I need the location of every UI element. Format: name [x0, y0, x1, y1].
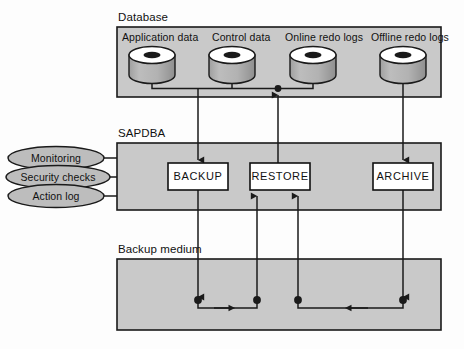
- diagram-canvas: Database SAPDBA Backup medium Applicatio…: [0, 0, 464, 349]
- cylinder-offline-redo-logs: [380, 47, 426, 84]
- junction-dot-medium-1: [194, 296, 202, 304]
- feature-label-action-log: Action log: [8, 190, 104, 202]
- process-label-restore: RESTORE: [250, 170, 310, 182]
- backup-medium-panel: [117, 259, 441, 330]
- store-label-control-data: Control data: [212, 31, 270, 43]
- cylinder-online-redo-logs: [290, 47, 336, 84]
- database-panel-label: Database: [118, 11, 168, 23]
- store-label-offline-redo-logs: Offline redo logs: [371, 31, 449, 43]
- process-label-backup: BACKUP: [168, 170, 228, 182]
- feature-label-security-checks: Security checks: [6, 171, 110, 183]
- cylinder-application-data: [129, 47, 175, 84]
- store-label-online-redo-logs: Online redo logs: [285, 31, 363, 43]
- junction-dot-medium-3: [294, 296, 302, 304]
- junction-dot-medium-4: [399, 296, 407, 304]
- backup-medium-panel-label: Backup medium: [118, 243, 202, 255]
- process-label-archive: ARCHIVE: [373, 170, 433, 182]
- sapdba-panel-label: SAPDBA: [118, 127, 165, 139]
- feature-label-monitoring: Monitoring: [8, 152, 104, 164]
- cylinder-control-data: [209, 47, 255, 84]
- junction-dot-database-bus: [275, 85, 282, 92]
- store-label-application-data: Application data: [122, 31, 198, 43]
- junction-dot-medium-2: [253, 296, 261, 304]
